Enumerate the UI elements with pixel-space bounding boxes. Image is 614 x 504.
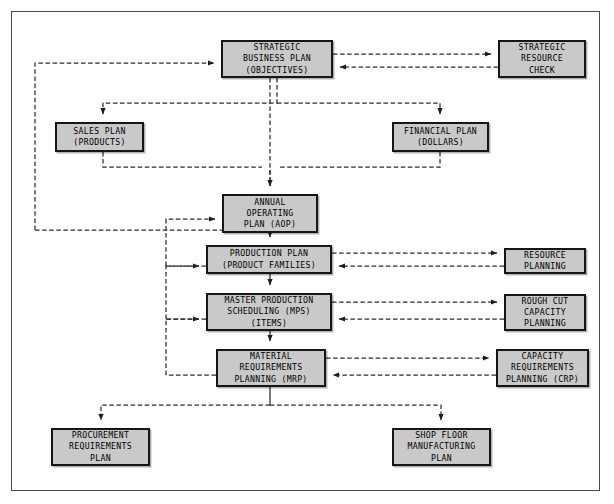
node-strategic-resource-check[interactable]: STRATEGIC RESOURCE CHECK (498, 40, 586, 78)
node-label: CAPACITY REQUIREMENTS PLANNING (CRP) (498, 351, 587, 385)
node-rough-cut-capacity-planning[interactable]: ROUGH CUT CAPACITY PLANNING (504, 294, 586, 331)
node-capacity-requirements-planning[interactable]: CAPACITY REQUIREMENTS PLANNING (CRP) (496, 349, 589, 387)
node-label: SALES PLAN (PRODUCTS) (57, 126, 142, 148)
node-label: ANNUAL OPERATING PLAN (AOP) (224, 197, 316, 231)
node-sales-plan[interactable]: SALES PLAN (PRODUCTS) (55, 122, 144, 152)
node-label: SHOP FLOOR MANUFACTURING PLAN (394, 430, 489, 464)
node-shop-floor-manufacturing-plan[interactable]: SHOP FLOOR MANUFACTURING PLAN (392, 428, 491, 466)
node-label: MATERIAL REQUIREMENTS PLANNING (MRP) (218, 351, 324, 385)
node-label: STRATEGIC RESOURCE CHECK (500, 42, 584, 76)
diagram-canvas: STRATEGIC BUSINESS PLAN (OBJECTIVES) STR… (0, 0, 614, 504)
node-label: RESOURCE PLANNING (506, 250, 584, 272)
node-material-requirements-planning[interactable]: MATERIAL REQUIREMENTS PLANNING (MRP) (216, 349, 326, 387)
node-label: MASTER PRODUCTION SCHEDULING (MPS) (ITEM… (208, 295, 330, 329)
node-resource-planning[interactable]: RESOURCE PLANNING (504, 248, 586, 274)
node-strategic-business-plan[interactable]: STRATEGIC BUSINESS PLAN (OBJECTIVES) (221, 40, 333, 78)
node-financial-plan[interactable]: FINANCIAL PLAN (DOLLARS) (392, 122, 489, 152)
node-procurement-requirements-plan[interactable]: PROCUREMENT REQUIREMENTS PLAN (51, 428, 150, 466)
node-label: ROUGH CUT CAPACITY PLANNING (506, 296, 584, 330)
node-annual-operating-plan[interactable]: ANNUAL OPERATING PLAN (AOP) (222, 194, 318, 233)
node-label: STRATEGIC BUSINESS PLAN (OBJECTIVES) (223, 42, 331, 76)
node-label: PROCUREMENT REQUIREMENTS PLAN (53, 430, 148, 464)
node-master-production-scheduling[interactable]: MASTER PRODUCTION SCHEDULING (MPS) (ITEM… (206, 293, 332, 331)
node-label: FINANCIAL PLAN (DOLLARS) (394, 126, 487, 148)
node-label: PRODUCTION PLAN (PRODUCT FAMILIES) (208, 248, 330, 270)
node-production-plan[interactable]: PRODUCTION PLAN (PRODUCT FAMILIES) (206, 245, 332, 274)
